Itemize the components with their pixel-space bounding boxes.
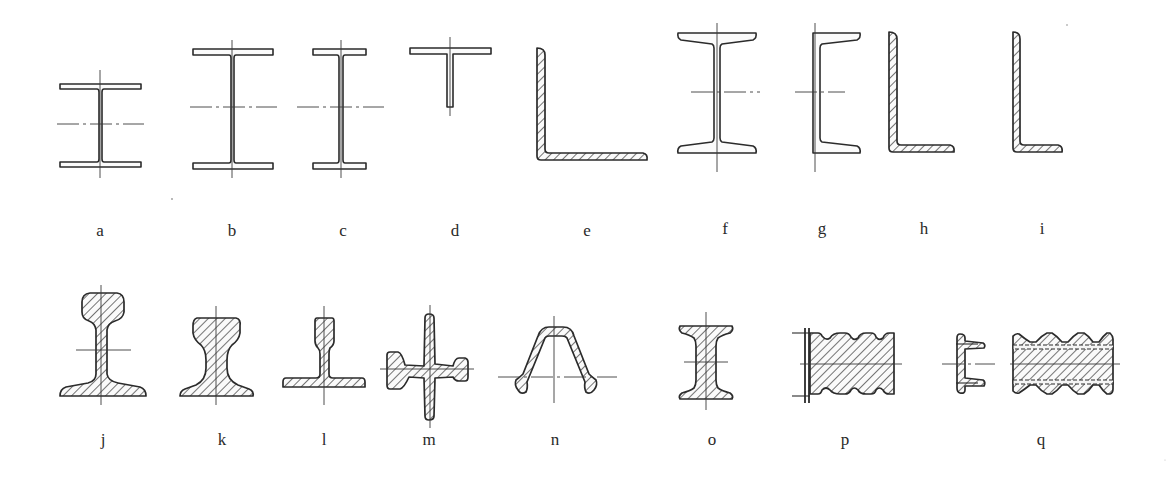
label-a: a [96,222,104,239]
profile-b-i-beam [190,40,277,178]
label-c: c [339,222,347,239]
label-b: b [228,222,237,239]
label-q: q [1037,431,1046,448]
profile-n-omega [498,316,617,403]
profile-j-rail [60,285,146,405]
label-f: f [722,220,728,237]
label-e: e [583,222,591,239]
profile-m-cross [380,305,474,428]
profile-q-channel [942,334,995,393]
label-o: o [708,431,717,448]
label-j: j [101,431,106,448]
profile-k-rail [180,306,253,405]
profile-e-angle [537,48,647,160]
label-l: l [322,431,327,448]
profile-i-angle [1013,24,1068,152]
profile-q-ribbed-strip [1010,333,1120,394]
profile-d-t-section [410,37,491,116]
profile-l-rail [283,306,365,405]
profile-o-solid-i [679,312,732,410]
profile-h-angle [889,32,954,152]
label-n: n [551,431,560,448]
label-d: d [451,222,460,239]
profile-g-channel [795,23,860,172]
label-g: g [818,220,827,237]
label-i: i [1040,220,1045,237]
profile-c-i-beam [297,40,384,178]
profile-p-ribbed-bar [792,328,902,403]
profile-a-i-beam [57,70,144,178]
label-p: p [841,431,850,448]
label-m: m [422,431,435,448]
label-k: k [218,431,227,448]
label-h: h [920,220,929,237]
profile-f-tapered-i-beam [678,23,760,172]
